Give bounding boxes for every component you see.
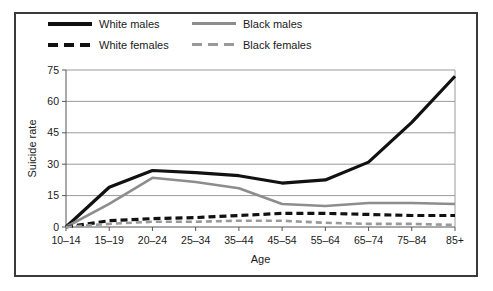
x-tick-label: 25–34 xyxy=(181,234,210,246)
line-chart-svg: 0153045607510–1415–1920–2425–3435–4445–5… xyxy=(0,0,493,291)
x-tick-label: 45–54 xyxy=(268,234,297,246)
plot-area: 0153045607510–1415–1920–2425–3435–4445–5… xyxy=(0,0,493,291)
x-tick-label: 35–44 xyxy=(224,234,253,246)
tick-label-layer: 0153045607510–1415–1920–2425–3435–4445–5… xyxy=(47,64,464,247)
axis-lines xyxy=(62,70,455,231)
y-tick-label: 15 xyxy=(47,189,59,201)
y-tick-label: 45 xyxy=(47,126,59,138)
x-tick-label: 55–64 xyxy=(311,234,340,246)
x-tick-label: 75–84 xyxy=(397,234,426,246)
y-tick-label: 0 xyxy=(53,221,59,233)
data-series-layer xyxy=(66,76,455,227)
x-axis-title: Age xyxy=(251,253,271,265)
series-line-white-males xyxy=(66,76,455,227)
x-tick-label: 15–19 xyxy=(95,234,124,246)
y-tick-label: 60 xyxy=(47,95,59,107)
x-tick-label: 10–14 xyxy=(51,234,80,246)
x-tick-label: 85+ xyxy=(446,234,464,246)
y-tick-label: 30 xyxy=(47,158,59,170)
x-tick-label: 65–74 xyxy=(354,234,383,246)
figure-root: White males Black males White females Bl… xyxy=(0,0,493,291)
y-tick-label: 75 xyxy=(47,64,59,76)
x-tick-label: 20–24 xyxy=(138,234,167,246)
y-axis-title: Suicide rate xyxy=(26,119,38,177)
series-line-black-females xyxy=(66,221,455,227)
